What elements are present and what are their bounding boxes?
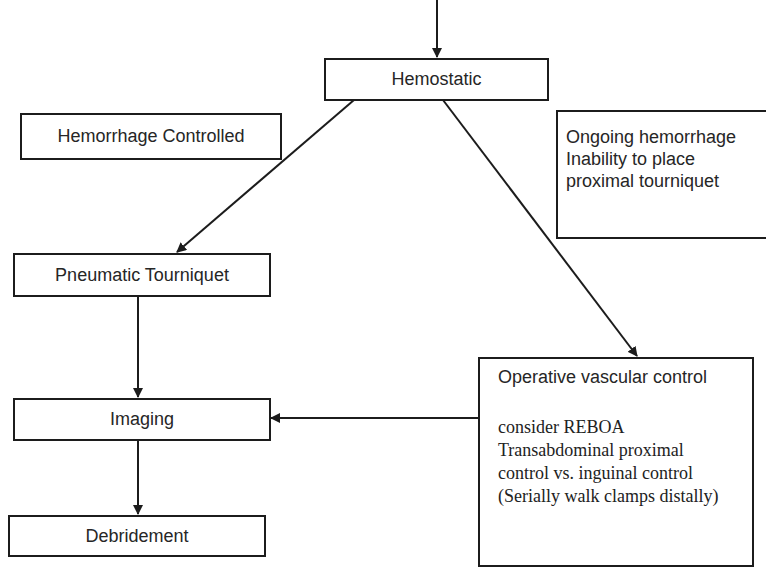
node-pneumatic-tourniquet-label: Pneumatic Tourniquet — [55, 265, 229, 286]
ongoing-line-1: Ongoing hemorrhage — [566, 126, 736, 148]
operative-line-3: control vs. inguinal control — [498, 462, 718, 485]
operative-line-1: consider REBOA — [498, 416, 718, 439]
operative-line-2: Transabdominal proximal — [498, 439, 718, 462]
node-debridement-label: Debridement — [85, 526, 188, 547]
node-operative-vascular-control: Operative vascular control consider REBO… — [478, 357, 754, 567]
node-hemostatic: Hemostatic — [324, 58, 549, 101]
node-pneumatic-tourniquet: Pneumatic Tourniquet — [13, 253, 271, 297]
node-hemostatic-label: Hemostatic — [391, 69, 481, 90]
ongoing-line-2: Inability to place — [566, 148, 695, 170]
operative-details: consider REBOA Transabdominal proximal c… — [498, 416, 718, 508]
operative-title: Operative vascular control — [498, 367, 707, 388]
node-imaging: Imaging — [13, 398, 271, 441]
node-ongoing-hemorrhage: Ongoing hemorrhage Inability to place pr… — [556, 110, 766, 239]
node-hemorrhage-controlled: Hemorrhage Controlled — [20, 113, 282, 160]
node-imaging-label: Imaging — [110, 409, 174, 430]
node-debridement: Debridement — [8, 515, 266, 557]
operative-line-4: (Serially walk clamps distally) — [498, 485, 718, 508]
ongoing-line-3: proximal tourniquet — [566, 170, 719, 192]
node-hemorrhage-controlled-label: Hemorrhage Controlled — [57, 126, 244, 147]
